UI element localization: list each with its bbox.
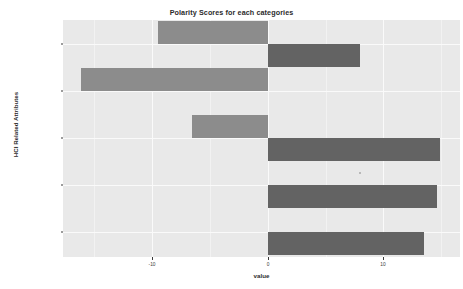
y-tick-mark-productcomparison <box>61 91 64 92</box>
plot-panel <box>63 20 460 257</box>
x-tick-mark-neg10 <box>152 257 153 260</box>
x-tick-label-zero: 0 <box>267 262 270 267</box>
bar-productdescription-negative <box>158 21 268 44</box>
bar-productdescription-positive <box>268 44 360 67</box>
y-tick-mark-productdescription <box>61 44 64 45</box>
chart-title: Polarity Scores for each categories <box>0 8 463 17</box>
bar-graphics-positive <box>268 138 440 161</box>
y-tick-mark-colors <box>61 232 64 233</box>
gridline-row-productdescription <box>63 44 460 45</box>
x-axis-title: value <box>63 272 460 279</box>
gridline-row-productcomparison <box>63 91 460 92</box>
polarity-bar-chart: Polarity Scores for each categories HCI … <box>0 0 463 289</box>
bar-graphics-negative <box>192 115 268 138</box>
artifact-speck <box>359 172 361 174</box>
x-tick-mark-zero <box>268 257 269 260</box>
bar-colors-positive <box>268 232 424 255</box>
y-tick-mark-fontsize <box>61 185 64 186</box>
y-tick-mark-graphics <box>61 138 64 139</box>
bar-fontsize-positive <box>268 185 437 208</box>
x-tick-label-pos10: 10 <box>380 262 385 267</box>
x-tick-label-neg10: -10 <box>149 262 156 267</box>
bar-productcomparison-negative <box>81 68 268 91</box>
y-axis-title: HCI Related Attributes <box>12 80 19 170</box>
x-tick-mark-pos10 <box>383 257 384 260</box>
